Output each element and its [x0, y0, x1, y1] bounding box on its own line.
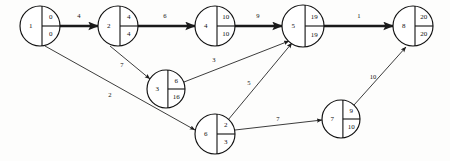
edge-label-6-7: 7	[276, 115, 280, 122]
node-3[interactable]: 3616	[147, 70, 185, 108]
node-4-id: 4	[204, 22, 208, 30]
node-2-late-time: 4	[127, 30, 131, 38]
edge-label-7-8: 10	[370, 73, 377, 80]
node-5-id: 5	[292, 22, 296, 30]
edge-label-5-8: 1	[357, 12, 360, 19]
node-2[interactable]: 244	[98, 6, 138, 46]
node-8-early-time: 20	[420, 13, 428, 21]
node-8-late-time: 20	[420, 30, 428, 38]
edge-label-4-5: 9	[256, 12, 260, 19]
node-3-late-time: 16	[173, 93, 181, 101]
node-6-early-time: 2	[224, 121, 228, 129]
node-1-id: 1	[29, 22, 33, 30]
node-4-early-time: 10	[222, 13, 230, 21]
node-2-early-time: 4	[127, 13, 131, 21]
node-3-id: 3	[156, 85, 160, 93]
node-4-late-time: 10	[222, 30, 230, 38]
edge-2-to-3	[110, 46, 150, 79]
edge-label-2-4: 6	[163, 12, 167, 19]
edge-label-1-6: 2	[108, 91, 111, 98]
edge-3-to-5	[184, 41, 289, 82]
node-8-id: 8	[402, 22, 406, 30]
node-7-early-time: 9	[350, 107, 354, 115]
edge-label-6-5: 5	[247, 79, 251, 86]
node-5-late-time: 19	[311, 31, 319, 39]
node-5-early-time: 19	[311, 13, 319, 21]
node-1[interactable]: 100	[20, 6, 60, 46]
network-diagram-canvas: 10024436164101051919623791082020 4691732…	[0, 0, 450, 161]
node-6-late-time: 3	[224, 138, 228, 146]
node-2-id: 2	[107, 22, 111, 30]
node-5[interactable]: 51919	[282, 5, 324, 47]
node-6-id: 6	[204, 130, 208, 138]
edge-label-3-5: 3	[212, 56, 216, 63]
network-diagram: 10024436164101051919623791082020 4691732…	[0, 0, 450, 161]
node-1-early-time: 0	[49, 13, 53, 21]
edge-label-1-2: 4	[77, 12, 81, 19]
node-7-id: 7	[331, 115, 335, 123]
node-3-early-time: 6	[175, 77, 179, 85]
node-7[interactable]: 7910	[322, 100, 360, 138]
node-7-late-time: 10	[348, 123, 356, 131]
node-1-late-time: 0	[49, 30, 53, 38]
node-6[interactable]: 623	[195, 114, 235, 154]
edge-label-2-3: 7	[120, 61, 124, 68]
node-4[interactable]: 41010	[195, 6, 235, 46]
node-8[interactable]: 82020	[393, 6, 433, 46]
edge-7-to-8	[354, 47, 406, 105]
edge-6-to-5	[228, 43, 292, 120]
